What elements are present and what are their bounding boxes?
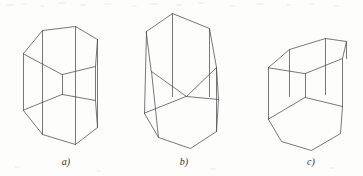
figure-b-vertical-edge <box>145 32 147 114</box>
scan-noise-fleck <box>230 5 236 7</box>
scan-noise-fleck <box>210 168 216 170</box>
scan-noise-fleck <box>104 3 111 5</box>
scan-noise-fleck <box>6 4 15 6</box>
figure-c-label: c) <box>296 156 326 167</box>
scan-noise-fleck <box>176 4 182 6</box>
scan-noise-fleck <box>286 4 291 6</box>
scan-noise-fleck <box>198 2 205 4</box>
figure-plate: a) b) c) <box>0 0 363 176</box>
wireframe-diagram <box>0 0 363 176</box>
scan-noise-fleck <box>330 167 335 169</box>
scan-noise-fleck <box>14 166 20 168</box>
scan-noise-fleck <box>334 5 340 7</box>
figure-c-top-face <box>269 39 347 74</box>
scan-noise-fleck <box>80 4 86 6</box>
figure-b-bottom-face <box>145 97 219 149</box>
scan-noise-fleck <box>40 5 45 7</box>
scan-noise-fleck <box>96 170 101 172</box>
scan-noise-fleck <box>132 5 137 7</box>
figure-c-wireframe <box>269 39 347 151</box>
figure-a-bottom-face <box>24 95 98 145</box>
figure-b-wireframe <box>145 14 219 149</box>
scan-noise-fleck <box>308 3 315 5</box>
figure-b-top-face <box>147 14 217 97</box>
scan-noise-fleck <box>150 3 159 5</box>
figure-a-wireframe <box>24 27 98 145</box>
figure-a-top-face <box>24 27 98 75</box>
scan-noise-fleck <box>58 2 66 4</box>
figure-b-label: b) <box>169 156 199 167</box>
scan-noise-fleck <box>22 3 28 5</box>
scan-noise-fleck <box>256 3 264 5</box>
figure-a-label: a) <box>51 156 81 167</box>
figure-c-bottom-face <box>269 98 343 151</box>
